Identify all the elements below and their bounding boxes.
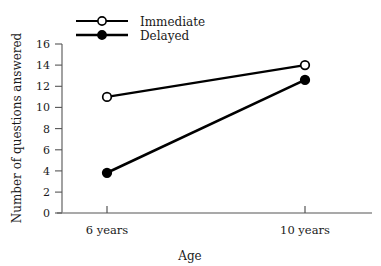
- y-tick-label-0: 0: [43, 207, 50, 220]
- y-tick-label-2: 2: [43, 186, 50, 199]
- y-tick-label-12: 12: [36, 80, 50, 93]
- series-delayed-line: [107, 80, 305, 173]
- chart-canvas: Immediate Delayed: [0, 0, 381, 266]
- legend-item-immediate[interactable]: Immediate: [76, 15, 205, 29]
- legend-label-delayed: Delayed: [140, 29, 190, 43]
- legend-item-delayed[interactable]: Delayed: [76, 29, 190, 43]
- series-immediate-line: [107, 65, 305, 97]
- x-tick-label-6-years: 6 years: [86, 223, 129, 237]
- y-tick-label-6: 6: [43, 144, 50, 157]
- data-point-immediate-10-years: [301, 61, 310, 70]
- y-axis-title: Number of questions answered: [10, 32, 24, 223]
- legend-label-immediate: Immediate: [140, 15, 205, 29]
- x-tick-label-10-years: 10 years: [280, 223, 330, 237]
- y-tick-label-14: 14: [36, 59, 50, 72]
- chart-legend: Immediate Delayed: [76, 15, 205, 43]
- series-immediate: [103, 61, 310, 101]
- axis-lines: [57, 44, 372, 213]
- data-point-delayed-6-years: [103, 169, 112, 178]
- data-point-delayed-10-years: [301, 76, 310, 85]
- legend-marker-open-circle-icon: [98, 17, 106, 25]
- y-tick-label-8: 8: [43, 123, 50, 136]
- y-tick-label-16: 16: [36, 38, 50, 51]
- legend-marker-filled-circle-icon: [98, 31, 106, 39]
- y-tick-label-10: 10: [36, 101, 50, 114]
- y-tick-label-4: 4: [43, 165, 50, 178]
- x-axis-ticks: 6 years 10 years: [86, 206, 330, 237]
- y-axis-ticks: 16 14 12 10 8 6 4 2 0: [36, 38, 62, 220]
- series-delayed: [103, 76, 310, 178]
- x-axis-title: Age: [177, 249, 201, 263]
- data-point-immediate-6-years: [103, 93, 112, 102]
- line-chart-figure: Immediate Delayed: [0, 0, 381, 266]
